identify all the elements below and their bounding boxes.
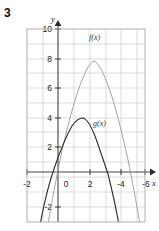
grid-lines [27,29,145,222]
plot-border [27,29,145,222]
x-tick-label-4: -4 [117,179,125,189]
y-axis-label: y [50,14,55,24]
figure-container: 3 [0,0,159,231]
y-tick-label-6: 6 [47,83,52,93]
x-tick-label-2: 2 [88,179,93,189]
x-tick-label-0: 0 [64,179,69,189]
graph-plot: 10 8 6 4 2 -2 -2 0 2 -4 -6 y x f(x) g(x) [0,0,159,231]
x-axis-label: x [151,178,156,188]
x-axis [27,169,156,176]
y-tick-label-4: 4 [47,113,52,123]
x-tick-label-6: -6 [142,179,150,189]
curve-f [48,61,140,225]
y-tick-label-8: 8 [47,54,52,64]
y-tick-label-2: 2 [47,142,52,152]
curve-label-g: g(x) [93,119,106,128]
curve-label-f: f(x) [89,33,100,42]
